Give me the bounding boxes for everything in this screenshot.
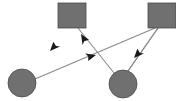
node-layer: [8, 3, 176, 98]
node-square-top-right[interactable]: [148, 3, 176, 28]
diagram-canvas: [0, 0, 176, 101]
edge-square-top-left-to-circle-bottom-left: [78, 28, 114, 73]
arrowhead-down-left-icon: [48, 42, 60, 54]
node-square-top-left[interactable]: [58, 3, 86, 28]
edge-square-top-right-to-circle-bottom-right: [128, 28, 158, 71]
arrowhead-up-right-icon: [85, 50, 97, 61]
node-circle-bottom-left[interactable]: [8, 69, 36, 97]
node-circle-bottom-right[interactable]: [109, 70, 137, 98]
arrowhead-layer: [48, 32, 144, 61]
graph-svg: [0, 0, 176, 101]
